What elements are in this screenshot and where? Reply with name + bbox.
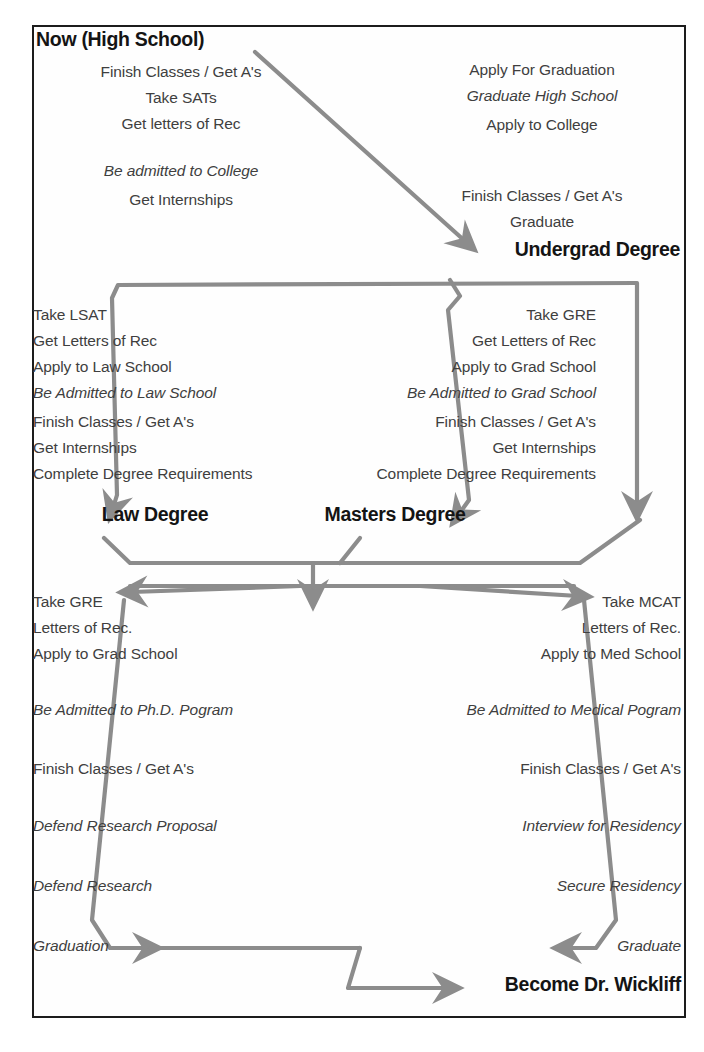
phd-milestone: Be Admitted to Ph.D. Pogram: [33, 701, 233, 718]
law-degree-node: Law Degree: [55, 505, 255, 539]
college-step-1: Apply For Graduation: [469, 61, 614, 78]
law-post-step-1: Finish Classes / Get A's: [33, 413, 194, 430]
law-step-3: Apply to Law School: [33, 358, 172, 375]
phd-final-step: Graduation: [33, 937, 109, 954]
masters-degree-node: Masters Degree: [285, 505, 505, 539]
med-final-step: Graduate: [617, 937, 681, 954]
undergrad-degree-title: Undergrad Degree: [515, 238, 680, 260]
med-step-2: Letters of Rec.: [582, 619, 681, 636]
med-step-3: Apply to Med School: [541, 645, 681, 662]
law-post-step-2: Get Internships: [33, 439, 137, 456]
med-mid-step-1: Finish Classes / Get A's: [520, 760, 681, 777]
college-degree-step-1: Finish Classes / Get A's: [462, 187, 623, 204]
high-school-step-2: Take SATs: [145, 89, 216, 106]
high-school-step-3: Get letters of Rec: [122, 115, 241, 132]
college-degree-step-2: Graduate: [510, 213, 574, 230]
grad-milestone: Be Admitted to Grad School: [407, 384, 596, 401]
grad-post-step-1: Finish Classes / Get A's: [435, 413, 596, 430]
goal-node: Become Dr. Wickliff: [420, 975, 681, 1009]
node-phd: Take GRE Letters of Rec. Apply to Grad S…: [33, 594, 333, 967]
grad-post-step-2: Get Internships: [492, 439, 596, 456]
grad-step-3: Apply to Grad School: [452, 358, 596, 375]
high-school-milestone: Be admitted to College: [104, 162, 259, 179]
node-med-school: Take MCAT Letters of Rec. Apply to Med S…: [370, 594, 681, 967]
med-residency-step-2: Secure Residency: [557, 877, 681, 894]
node-law-school: Take LSAT Get Letters of Rec Apply to La…: [33, 307, 333, 492]
grad-step-1: Take GRE: [526, 306, 596, 323]
node-high-school: Now (High School) Finish Classes / Get A…: [36, 30, 326, 218]
high-school-title: Now (High School): [36, 28, 204, 50]
high-school-step-1: Finish Classes / Get A's: [101, 63, 262, 80]
phd-step-3: Apply to Grad School: [33, 645, 177, 662]
phd-step-1: Take GRE: [33, 593, 103, 610]
masters-degree-title: Masters Degree: [324, 503, 465, 525]
college-post-step-1: Apply to College: [486, 116, 597, 133]
grad-post-step-3: Complete Degree Requirements: [377, 465, 596, 482]
phd-research-step-2: Defend Research: [33, 877, 152, 894]
law-step-2: Get Letters of Rec: [33, 332, 157, 349]
grad-step-2: Get Letters of Rec: [472, 332, 596, 349]
high-school-post-step-1: Get Internships: [129, 191, 233, 208]
node-college: Apply For Graduation Graduate High Schoo…: [404, 62, 680, 274]
phd-research-step-1: Defend Research Proposal: [33, 817, 217, 834]
goal-title: Become Dr. Wickliff: [505, 973, 681, 995]
law-degree-title: Law Degree: [102, 503, 208, 525]
node-grad-school: Take GRE Get Letters of Rec Apply to Gra…: [318, 307, 596, 492]
phd-step-2: Letters of Rec.: [33, 619, 132, 636]
law-step-1: Take LSAT: [33, 306, 107, 323]
med-step-1: Take MCAT: [602, 593, 681, 610]
law-post-step-3: Complete Degree Requirements: [33, 465, 252, 482]
med-milestone: Be Admitted to Medical Pogram: [467, 701, 682, 718]
law-milestone: Be Admitted to Law School: [33, 384, 216, 401]
phd-mid-step-1: Finish Classes / Get A's: [33, 760, 194, 777]
college-milestone: Graduate High School: [467, 87, 618, 104]
med-residency-step-1: Interview for Residency: [522, 817, 681, 834]
